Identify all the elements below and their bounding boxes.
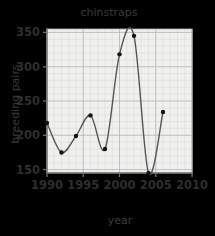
x-axis-tick-labels: 19901995200020052010 [31, 178, 208, 192]
data-point-1992 [59, 150, 63, 154]
data-point-1994 [74, 134, 78, 138]
data-point-2006 [161, 110, 165, 114]
y-axis-title: breeding pairs [9, 64, 22, 144]
data-point-1996 [88, 113, 92, 117]
y-tick-label: 350 [16, 25, 40, 39]
x-tick-label: 1995 [67, 178, 99, 192]
y-tick-label: 150 [16, 163, 40, 177]
data-point-2002 [132, 34, 136, 38]
x-tick-label: 2000 [103, 178, 135, 192]
data-point-1998 [103, 147, 107, 151]
x-tick-label: 2010 [176, 178, 208, 192]
chart-container: 19901995200020052010 150200250300350 chi… [0, 0, 215, 236]
x-tick-label: 2005 [140, 178, 172, 192]
chinstraps-line-chart: 19901995200020052010 150200250300350 chi… [0, 0, 215, 236]
data-point-2000 [117, 52, 121, 56]
data-point-1990 [45, 121, 49, 125]
x-tick-label: 1990 [31, 178, 63, 192]
chart-title: chinstraps [80, 6, 137, 19]
x-axis-title: year [108, 214, 133, 227]
data-point-2004 [146, 171, 150, 175]
